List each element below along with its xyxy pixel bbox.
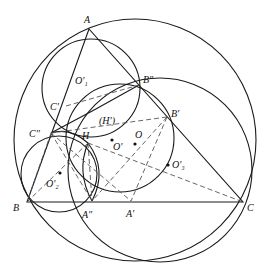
label-c1: C' xyxy=(50,101,60,112)
label-o3p: O'₃ xyxy=(172,159,185,170)
arc-c2-b2 xyxy=(51,85,139,133)
triangle-abc xyxy=(27,29,243,202)
label-o: O xyxy=(135,129,142,140)
dash-b1-a2 xyxy=(92,117,167,201)
label-b: B xyxy=(13,202,19,213)
label-b2: B" xyxy=(143,74,154,85)
arc-h-a2-left xyxy=(83,143,92,201)
label-b1: B' xyxy=(171,108,180,119)
label-h1: (H') xyxy=(99,115,116,127)
label-o1p: O'₁ xyxy=(75,75,88,86)
point-o xyxy=(133,142,136,145)
label-h: H xyxy=(81,130,90,141)
point-o2p xyxy=(58,171,61,174)
label-a2: A" xyxy=(81,209,93,220)
diagram-canvas: A B C B" B' C' C" H (H') A" A' O O' O'₁ … xyxy=(0,0,267,277)
label-o2p: O'₂ xyxy=(46,178,59,189)
dash-c1-b2 xyxy=(66,85,139,106)
label-a: A xyxy=(83,14,91,25)
circumcircle xyxy=(14,19,256,261)
label-o1: O' xyxy=(113,141,123,152)
geometry-diagram: A B C B" B' C' C" H (H') A" A' O O' O'₁ … xyxy=(0,0,267,277)
label-c: C xyxy=(247,202,254,213)
label-c2: C" xyxy=(29,128,41,139)
point-o3p xyxy=(166,163,169,166)
dash-h-c xyxy=(88,143,243,202)
label-a1: A' xyxy=(125,208,135,219)
